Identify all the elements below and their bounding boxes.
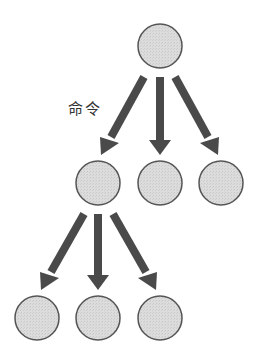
arrow-root-to-right [175,77,219,155]
node-middle-center [138,161,182,205]
node-bottom-right [138,296,182,340]
arrow-mid-to-bottom-left [40,214,84,290]
node-middle-left [76,161,120,205]
arrow-mid-to-bottom-center [87,214,109,290]
hierarchy-diagram [0,0,261,362]
node-root [138,24,182,68]
arrow-root-to-left [100,77,144,155]
node-middle-right [199,161,243,205]
arrow-root-to-center [149,77,171,155]
arrow-mid-to-bottom-right [113,214,157,290]
command-label: 命令 [68,97,102,118]
node-bottom-center [76,296,120,340]
node-bottom-left [15,296,59,340]
